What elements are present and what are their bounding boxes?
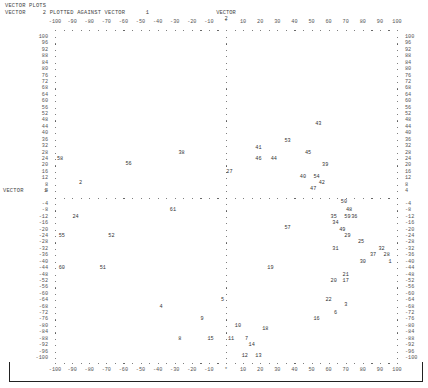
dot-mark [226, 230, 227, 231]
y-tick-label: 4 [18, 188, 48, 194]
data-point-label: 58 [57, 156, 63, 162]
data-point-label: 59 [344, 214, 350, 220]
dot-mark [397, 88, 398, 89]
dot-mark [226, 287, 227, 288]
data-point-label: 3 [344, 302, 347, 308]
dot-mark [397, 30, 398, 31]
dot-mark [226, 153, 227, 154]
dot-mark [55, 178, 56, 179]
dot-mark [397, 114, 398, 115]
dot-mark [55, 159, 56, 160]
dot-mark [252, 30, 253, 31]
data-point-label: 53 [284, 138, 290, 144]
dot-mark [55, 88, 56, 89]
dot-mark [72, 30, 73, 31]
dot-mark [397, 140, 398, 141]
data-point-label: 36 [351, 214, 357, 220]
y-tick-label: 92 [405, 47, 411, 53]
data-point-label: 9 [200, 316, 203, 322]
dot-mark [226, 69, 227, 70]
x-tick-label: -40 [153, 19, 162, 25]
dot-mark [226, 50, 227, 51]
y-tick-label: 8 [405, 182, 408, 188]
dot-mark [397, 332, 398, 333]
dot-mark [166, 198, 167, 199]
data-point-label: 41 [255, 145, 261, 151]
dot-mark [149, 30, 150, 31]
data-point-label: 34 [332, 220, 338, 226]
y-tick-label: -60 [405, 291, 414, 297]
dot-mark [397, 153, 398, 154]
data-point-label: 17 [343, 278, 349, 284]
plot-title: VECTOR PLOTS [5, 3, 46, 9]
data-point-label: 37 [370, 252, 376, 258]
dot-mark [55, 332, 56, 333]
y-tick-label: -64 [18, 297, 48, 303]
dot-mark [55, 242, 56, 243]
dot-mark [226, 242, 227, 243]
dot-mark [55, 275, 56, 276]
data-point-label: 49 [339, 227, 345, 233]
y-tick-label: 40 [18, 130, 48, 136]
data-point-label: 32 [378, 246, 384, 252]
dot-mark [397, 185, 398, 186]
dot-mark [158, 198, 159, 199]
y-tick-label: -8 [18, 207, 48, 213]
y-tick-label: 84 [405, 60, 411, 66]
dot-mark [166, 30, 167, 31]
y-tick-label: -32 [18, 246, 48, 252]
y-tick-label: 100 [18, 34, 48, 40]
data-point-label: 35 [331, 214, 337, 220]
y-tick-label: 92 [18, 47, 48, 53]
dot-mark [397, 127, 398, 128]
dot-mark [226, 275, 227, 276]
y-tick-label: -52 [405, 278, 414, 284]
dot-mark [226, 210, 227, 211]
dot-mark [286, 198, 287, 199]
dot-mark [226, 326, 227, 327]
data-point-label: 4 [159, 304, 162, 310]
dot-mark [226, 358, 227, 359]
dot-mark [397, 120, 398, 121]
data-point-label: 31 [332, 246, 338, 252]
dot-mark [123, 30, 124, 31]
data-point-label: 21 [343, 272, 349, 278]
dot-mark [226, 76, 227, 77]
data-point-label: 24 [72, 214, 78, 220]
dot-mark [397, 50, 398, 51]
dot-mark [55, 217, 56, 218]
dot-mark [226, 120, 227, 121]
y-tick-label: 52 [18, 111, 48, 117]
dot-mark [397, 217, 398, 218]
y-tick-label: -68 [18, 304, 48, 310]
dot-mark [226, 281, 227, 282]
dot-mark [397, 101, 398, 102]
y-tick-label: -100 [405, 355, 417, 361]
y-tick-label: 40 [405, 130, 411, 136]
dot-mark [55, 352, 56, 353]
dot-mark [235, 198, 236, 199]
dot-mark [158, 30, 159, 31]
y-tick-label: 64 [405, 92, 411, 98]
dot-mark [132, 198, 133, 199]
data-point-label: 38 [178, 150, 184, 156]
y-tick-label: 76 [18, 73, 48, 79]
dot-mark [226, 37, 227, 38]
dot-mark [226, 63, 227, 64]
y-tick-label: -40 [18, 259, 48, 265]
y-tick-label: -16 [405, 220, 414, 226]
dot-mark [243, 198, 244, 199]
dot-mark [226, 56, 227, 57]
y-tick-label: 88 [18, 53, 48, 59]
dot-mark [397, 236, 398, 237]
dot-mark [55, 236, 56, 237]
dot-mark [55, 56, 56, 57]
data-point-label: 44 [271, 156, 277, 162]
y-tick-label: 12 [405, 175, 411, 181]
x-tick-label: * [224, 19, 227, 25]
dot-mark [55, 37, 56, 38]
y-tick-label: -92 [405, 342, 414, 348]
y-tick-label: -56 [18, 284, 48, 290]
dot-mark [294, 30, 295, 31]
data-point-label: 5 [221, 297, 224, 303]
